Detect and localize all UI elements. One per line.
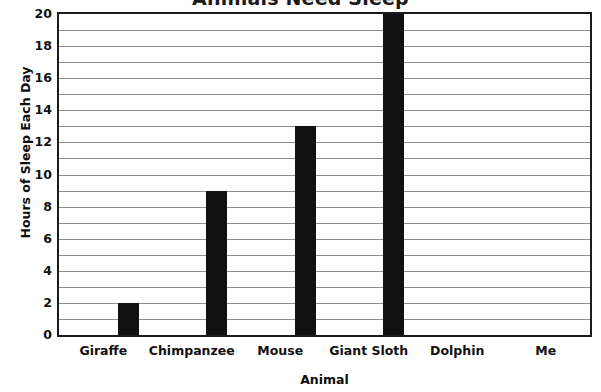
gridline (59, 271, 590, 272)
x-tick-label: Me (502, 343, 591, 359)
y-tick-label: 6 (6, 233, 52, 245)
gridline (59, 319, 590, 320)
x-tick-label: Giant Sloth (325, 343, 414, 359)
gridline (59, 142, 590, 143)
gridline (59, 175, 590, 176)
bar (118, 303, 139, 335)
gridline (59, 126, 590, 127)
y-tick-label: 2 (6, 297, 52, 309)
gridline (59, 62, 590, 63)
bar (383, 14, 404, 335)
y-tick-label: 10 (6, 169, 52, 181)
y-tick-label: 0 (6, 329, 52, 341)
y-tick-label: 16 (6, 72, 52, 84)
gridline (59, 78, 590, 79)
gridline (59, 46, 590, 47)
y-tick-label: 20 (6, 8, 52, 20)
gridline (59, 255, 590, 256)
gridline (59, 191, 590, 192)
gridline (59, 207, 590, 208)
y-tick-label: 12 (6, 136, 52, 148)
gridline (59, 223, 590, 224)
y-tick-label: 4 (6, 265, 52, 277)
x-tick-label: Mouse (236, 343, 325, 359)
plot-area (57, 12, 592, 337)
bar-chart: Animals Need Sleep Hours of Sleep Each D… (0, 0, 601, 392)
y-tick-label: 18 (6, 40, 52, 52)
gridline (59, 287, 590, 288)
x-tick-label: Giraffe (59, 343, 148, 359)
gridline (59, 303, 590, 304)
chart-title: Animals Need Sleep (0, 0, 601, 9)
bar (206, 191, 227, 335)
gridline (59, 110, 590, 111)
y-tick-label: 14 (6, 104, 52, 116)
x-tick-label: Dolphin (413, 343, 502, 359)
bar (295, 126, 316, 335)
gridline (59, 94, 590, 95)
gridline (59, 158, 590, 159)
y-axis-tick-labels: 02468101214161820 (0, 0, 52, 392)
x-tick-label: Chimpanzee (148, 343, 237, 359)
gridline (59, 239, 590, 240)
x-axis-title: Animal (57, 372, 592, 387)
y-tick-label: 8 (6, 201, 52, 213)
x-axis-tick-labels: GiraffeChimpanzeeMouseGiant SlothDolphin… (57, 343, 592, 363)
gridline (59, 30, 590, 31)
